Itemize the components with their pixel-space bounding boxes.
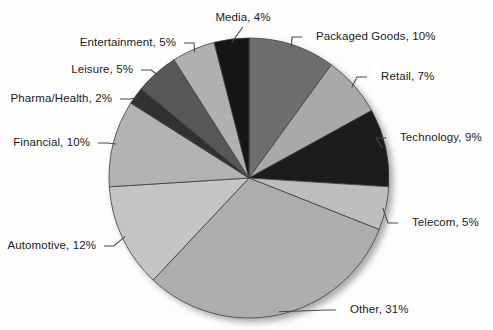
pie-chart-figure: Packaged Goods, 10%Retail, 7%Technology,… (0, 0, 493, 330)
pie-label-entertainment: Entertainment, 5% (0, 36, 176, 49)
pie-slices-group (109, 38, 389, 318)
pie-label-leisure: Leisure, 5% (0, 63, 133, 76)
pie-label-automotive: Automotive, 12% (0, 239, 96, 252)
pie-chart-svg (0, 0, 493, 330)
pie-label-telecom: Telecom, 5% (412, 216, 479, 229)
pie-label-other: Other, 31% (350, 303, 409, 316)
pie-label-financial: Financial, 10% (0, 136, 90, 149)
pie-label-technology: Technology, 9% (400, 131, 482, 144)
pie-label-retail: Retail, 7% (381, 70, 434, 83)
leader-line-automotive (104, 236, 125, 246)
leader-line-financial (98, 143, 116, 144)
pie-label-packaged-goods: Packaged Goods, 10% (316, 30, 436, 43)
pie-label-media: Media, 4% (173, 11, 313, 24)
pie-label-pharma-health: Pharma/Health, 2% (0, 92, 112, 105)
